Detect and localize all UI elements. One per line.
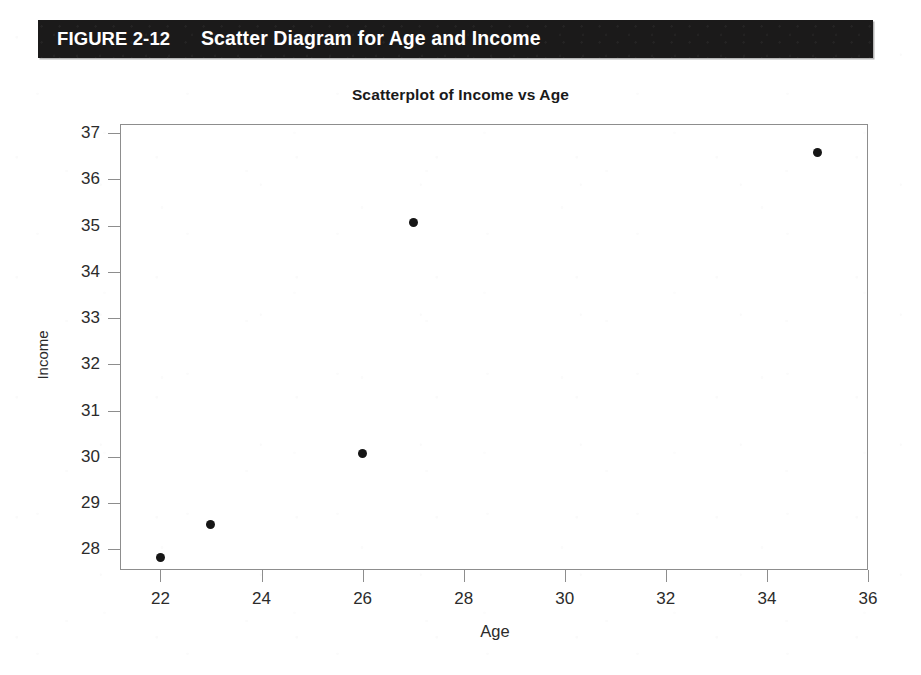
y-axis-tick [108,179,120,180]
y-axis-tick [108,457,120,458]
y-axis-tick [108,226,120,227]
y-axis-tick-label: 37 [0,123,100,143]
x-axis-title: Age [480,622,509,641]
data-point [358,449,367,458]
x-axis-tick [363,570,364,582]
x-axis-tick [666,570,667,582]
x-axis-tick-label: 22 [151,589,170,609]
y-axis-tick [108,272,120,273]
y-axis-tick [108,411,120,412]
data-point [409,218,418,227]
x-axis-tick-label: 24 [252,589,271,609]
data-point [156,553,165,562]
x-axis-tick-label: 26 [353,589,372,609]
x-axis-tick-label: 34 [757,589,776,609]
y-axis-tick-label: 30 [0,447,100,467]
chart-title: Scatterplot of Income vs Age [0,86,921,104]
y-axis-tick-label: 36 [0,169,100,189]
x-axis-tick-label: 30 [555,589,574,609]
data-point [813,148,822,157]
y-axis-tick-label: 35 [0,216,100,236]
y-axis-tick-label: 28 [0,539,100,559]
y-axis-tick-label: 33 [0,308,100,328]
y-axis-tick-label: 29 [0,493,100,513]
x-axis-tick [565,570,566,582]
y-axis-tick [108,364,120,365]
y-axis-tick [108,503,120,504]
x-axis-tick [767,570,768,582]
x-axis-tick-label: 28 [454,589,473,609]
x-axis-tick [262,570,263,582]
x-axis-tick [868,570,869,582]
x-axis-tick [160,570,161,582]
x-axis-tick-label: 32 [656,589,675,609]
y-axis-tick [108,318,120,319]
y-axis-tick-label: 34 [0,262,100,282]
y-axis-tick-label: 32 [0,354,100,374]
x-axis-tick-label: 36 [859,589,878,609]
y-axis-tick [108,549,120,550]
y-axis-tick [108,133,120,134]
plot-frame [120,124,868,570]
x-axis-tick [464,570,465,582]
scatter-chart: Scatterplot of Income vs Age Income Age … [0,0,921,675]
y-axis-tick-label: 31 [0,401,100,421]
